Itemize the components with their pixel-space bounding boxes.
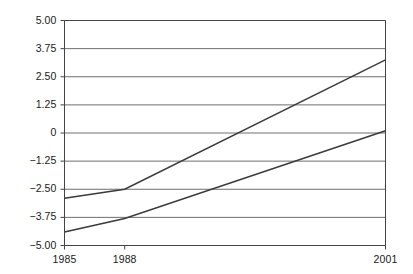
gridlines: [65, 21, 386, 246]
series-lines: [65, 60, 386, 232]
x-tick-label: 1988: [95, 253, 155, 265]
x-tick-label: 1985: [35, 253, 95, 265]
y-tick-label: −3.75: [29, 210, 56, 222]
series-line-lower: [65, 131, 386, 232]
y-tick-label: 5.00: [36, 14, 57, 26]
x-tick-label: 2001: [356, 253, 413, 265]
axis-ticks: [61, 21, 386, 250]
y-tick-label: 0: [51, 126, 57, 138]
line-chart: 5.003.752.501.250−1.25−2.50−3.75−5.00 19…: [0, 0, 413, 274]
y-tick-label: −5.00: [29, 239, 56, 251]
y-tick-label: 1.25: [36, 98, 57, 110]
y-tick-label: −2.50: [29, 182, 56, 194]
series-line-upper: [65, 60, 386, 198]
y-tick-label: −1.25: [29, 154, 56, 166]
y-tick-label: 3.75: [36, 42, 57, 54]
chart-plot-area: [0, 0, 413, 274]
y-tick-label: 2.50: [36, 70, 57, 82]
